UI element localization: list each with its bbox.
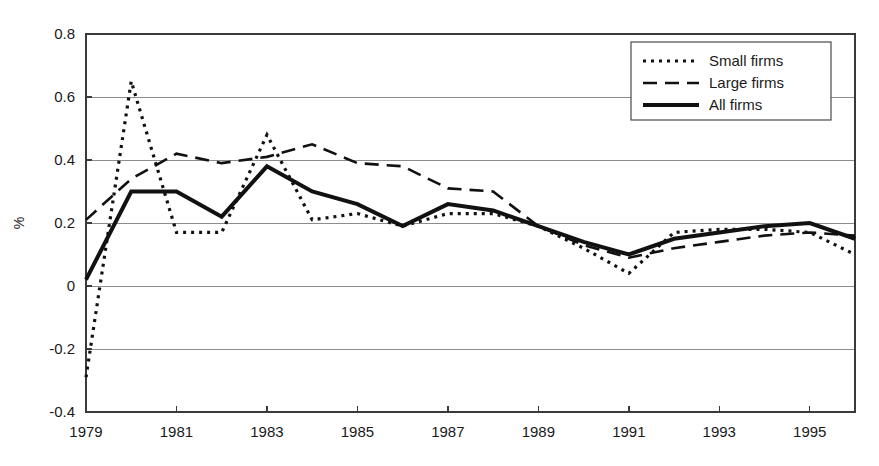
chart-container: 0.80.60.40.20-0.2-0.4 197919811983198519… [0, 0, 879, 466]
legend-label-all-firms: All firms [709, 96, 762, 113]
y-tick-label: 0.8 [54, 25, 75, 42]
x-tick-label: 1989 [522, 423, 555, 440]
x-tick-label: 1981 [160, 423, 193, 440]
y-tick-label: 0.6 [54, 88, 75, 105]
x-tick-label: 1993 [703, 423, 736, 440]
y-axis-title: % [11, 217, 27, 229]
y-tick-label: 0.4 [54, 151, 75, 168]
legend-label-large-firms: Large firms [709, 74, 784, 91]
y-tick-label: 0.2 [54, 214, 75, 231]
x-axis-tick-labels: 197919811983198519871989199119931995 [69, 423, 826, 440]
chart-legend[interactable]: Small firmsLarge firmsAll firms [631, 42, 831, 120]
y-tick-label: -0.2 [49, 340, 75, 357]
line-chart: 0.80.60.40.20-0.2-0.4 197919811983198519… [0, 0, 879, 466]
x-tick-label: 1979 [69, 423, 102, 440]
legend-label-small-firms: Small firms [709, 52, 783, 69]
x-tick-label: 1983 [250, 423, 283, 440]
y-tick-label: -0.4 [49, 403, 75, 420]
y-tick-label: 0 [67, 277, 75, 294]
x-tick-label: 1987 [431, 423, 464, 440]
x-tick-label: 1991 [612, 423, 645, 440]
y-axis-label: % [11, 217, 27, 229]
x-tick-label: 1985 [341, 423, 374, 440]
x-tick-label: 1995 [793, 423, 826, 440]
